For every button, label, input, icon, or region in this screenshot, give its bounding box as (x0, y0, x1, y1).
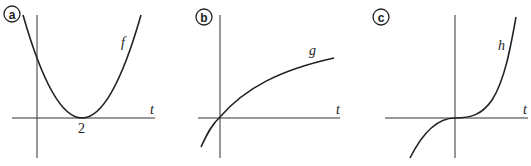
curve-g (201, 58, 334, 147)
function-label-f: f (121, 35, 127, 50)
t-axis-label-b: t (336, 102, 341, 117)
tick-label-2: 2 (78, 121, 85, 136)
function-label-g: g (309, 43, 316, 58)
badge-a: a (4, 6, 20, 22)
panel-c: c t h (373, 9, 528, 158)
badge-b: b (196, 9, 212, 25)
function-graphs-figure: a t 2 f b t g c t h (0, 0, 531, 166)
badge-b-letter: b (200, 11, 207, 25)
badge-c-letter: c (378, 11, 385, 25)
panel-b: b t g (196, 9, 341, 158)
badge-a-letter: a (9, 8, 16, 22)
badge-c: c (373, 9, 389, 25)
t-axis-label-c: t (523, 102, 528, 117)
function-label-h: h (498, 38, 505, 53)
curve-f (23, 15, 141, 118)
panel-a: a t 2 f (4, 6, 155, 158)
t-axis-label-a: t (150, 102, 155, 117)
